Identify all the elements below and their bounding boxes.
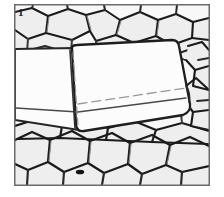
texture-overlay xyxy=(15,5,209,185)
figure-root: 1 xyxy=(0,0,224,197)
microstructure-illustration xyxy=(0,0,224,197)
panel-label: 1 xyxy=(18,7,24,18)
